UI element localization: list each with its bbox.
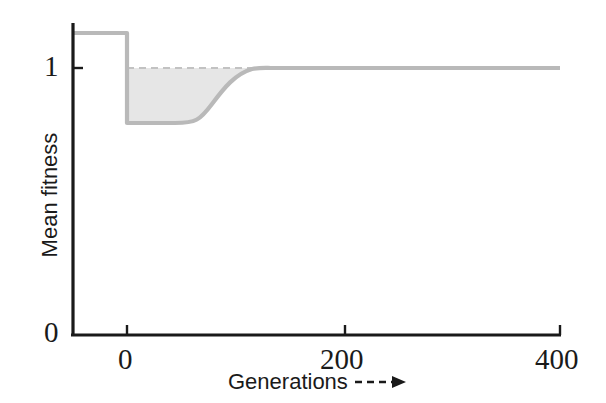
x-axis-tick-label-0: 0 xyxy=(118,345,133,374)
mean-fitness-plot xyxy=(0,0,606,403)
arrow-right-dashed-icon xyxy=(354,372,412,392)
y-axis-tick-label-0: 0 xyxy=(44,318,59,347)
y-axis-tick-label-1: 1 xyxy=(44,52,59,81)
x-axis-tick-label-400: 400 xyxy=(535,345,579,374)
y-axis-title: Mean fitness xyxy=(37,85,63,305)
fitness-deficit-area xyxy=(127,68,271,123)
x-axis-title: Generations xyxy=(228,369,348,395)
figure-container: 1 0 0 200 400 Mean fitness Generations xyxy=(0,0,606,403)
x-axis-title-group: Generations xyxy=(228,369,412,395)
